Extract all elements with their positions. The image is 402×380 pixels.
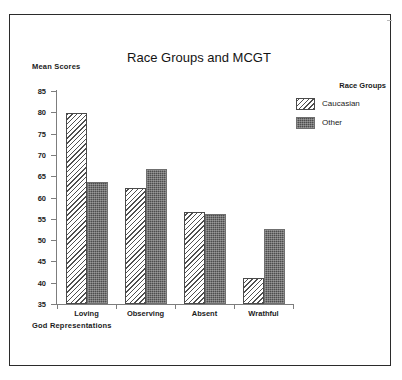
bar-wrathful-caucasian xyxy=(243,278,264,304)
chart-title: Race Groups and MCGT xyxy=(114,50,284,65)
y-axis-tick-label: 70 xyxy=(20,151,46,160)
bar-loving-other xyxy=(87,182,108,304)
legend-title: Race Groups xyxy=(296,81,388,90)
y-axis-tick-label: 50 xyxy=(20,236,46,245)
y-axis-tick-label: 60 xyxy=(20,194,46,203)
plot-area xyxy=(57,91,293,304)
bar-absent-caucasian xyxy=(184,212,205,304)
bar-observing-other xyxy=(146,169,167,304)
y-axis-tick-label: 65 xyxy=(20,172,46,181)
y-axis-tick-label: 40 xyxy=(20,279,46,288)
figure-frame: Mean Scores Race Groups and MCGT God Rep… xyxy=(9,14,391,366)
legend-label-caucasian: Caucasian xyxy=(322,99,360,108)
x-axis-tick-label: Loving xyxy=(57,309,116,318)
bar-absent-other xyxy=(205,214,226,304)
bar-observing-caucasian xyxy=(125,188,146,304)
y-axis-tick-label: 35 xyxy=(20,300,46,309)
legend-item-caucasian: Caucasian xyxy=(296,97,388,110)
x-axis-tick-label: Wrathful xyxy=(234,309,293,318)
legend-swatch-caucasian xyxy=(296,98,315,110)
x-axis-tick xyxy=(57,304,58,309)
bar-loving-caucasian xyxy=(66,113,87,304)
legend-label-other: Other xyxy=(322,118,342,127)
x-axis-tick xyxy=(293,304,294,309)
x-axis-tick-label: Absent xyxy=(175,309,234,318)
legend-item-other: Other xyxy=(296,116,388,129)
y-axis-tick-label: 85 xyxy=(20,87,46,96)
x-axis-tick-label: Observing xyxy=(116,309,175,318)
bar-wrathful-other xyxy=(264,229,285,304)
y-axis-tick-label: 45 xyxy=(20,257,46,266)
bar-chart: Mean Scores Race Groups and MCGT God Rep… xyxy=(10,15,392,367)
y-axis-title: Mean Scores xyxy=(32,62,80,71)
y-axis-tick-label: 75 xyxy=(20,130,46,139)
legend: Race Groups Caucasian Other xyxy=(296,81,388,135)
y-axis-tick-label: 55 xyxy=(20,215,46,224)
legend-swatch-other xyxy=(296,117,315,129)
x-axis-title: God Representations xyxy=(32,321,112,330)
y-axis-tick-label: 80 xyxy=(20,108,46,117)
